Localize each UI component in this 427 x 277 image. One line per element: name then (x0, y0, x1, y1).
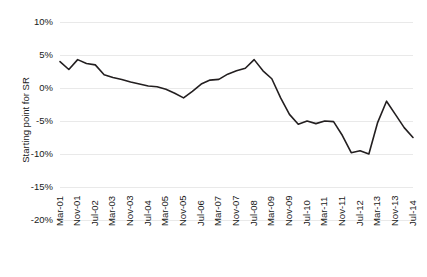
x-tick-label: Jul-12 (354, 200, 365, 226)
x-tick-label: Jul-04 (142, 200, 153, 226)
line-chart: 10%5%0%-5%-10%-15%-20% Mar-01Nov-01Jul-0… (0, 0, 427, 277)
y-tick-label: 0% (39, 82, 53, 93)
y-tick-label: -5% (36, 115, 53, 126)
x-tick-label: Mar-01 (54, 196, 65, 226)
x-tick-label: Mar-09 (265, 196, 276, 226)
x-tick-label: Jul-02 (89, 200, 100, 226)
series-line (60, 60, 413, 154)
y-tick-label: 5% (39, 49, 53, 60)
x-tick-label: Nov-01 (71, 195, 82, 226)
x-tick-label: Jul-08 (248, 200, 259, 226)
y-tick-label: -15% (31, 181, 54, 192)
x-tick-label: Mar-03 (106, 196, 117, 226)
y-axis-tick-labels: 10%5%0%-5%-10%-15%-20% (31, 16, 54, 225)
y-tick-label: -10% (31, 148, 54, 159)
x-tick-label: Nov-07 (230, 195, 241, 226)
x-tick-label: Nov-11 (336, 196, 347, 226)
x-tick-label: Nov-09 (283, 195, 294, 226)
gridlines (60, 22, 413, 220)
x-tick-label: Nov-03 (124, 195, 135, 226)
x-tick-label: Nov-13 (389, 195, 400, 226)
x-tick-label: Jul-06 (195, 200, 206, 226)
y-tick-label: -20% (31, 214, 54, 225)
x-tick-label: Jul-10 (301, 200, 312, 226)
chart-container: 10%5%0%-5%-10%-15%-20% Mar-01Nov-01Jul-0… (0, 0, 427, 277)
y-tick-label: 10% (34, 16, 54, 27)
x-axis-tick-labels: Mar-01Nov-01Jul-02Mar-03Nov-03Jul-04Mar-… (54, 195, 418, 226)
x-tick-label: Mar-13 (371, 196, 382, 226)
x-tick-label: Mar-05 (159, 196, 170, 226)
x-tick-label: Mar-07 (212, 196, 223, 226)
x-tick-label: Nov-05 (177, 195, 188, 226)
x-tick-label: Jul-14 (407, 200, 418, 226)
series-group (60, 60, 413, 154)
x-tick-label: Mar-11 (318, 197, 329, 226)
y-axis-title: Starting point for SR (20, 77, 31, 163)
